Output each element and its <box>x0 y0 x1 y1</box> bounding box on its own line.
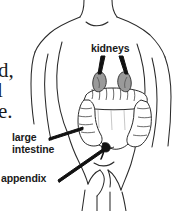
neck-left-line <box>80 0 84 17</box>
left-kidney-shape <box>93 72 107 92</box>
left-shoulder-line <box>35 17 80 52</box>
neck-right-line <box>112 0 117 17</box>
left-flank-line <box>57 42 68 134</box>
right-thigh-line <box>122 192 126 211</box>
colon-striations <box>98 110 125 130</box>
body-text-fragment-2: l <box>0 80 3 101</box>
abdomen-crease-line <box>94 162 114 166</box>
label-appendix: appendix <box>1 173 46 185</box>
right-kidney-shape <box>118 72 132 92</box>
kidneys-leader-left <box>98 56 105 74</box>
body-text-fragment-3: e. <box>0 101 13 122</box>
pubis-right-line <box>108 170 110 187</box>
right-arm-inner-line <box>152 58 157 147</box>
large-intestine-drawing <box>78 88 151 149</box>
left-thigh-line <box>82 190 85 211</box>
kidneys-leader-right <box>119 56 128 74</box>
left-arm-inner-line <box>45 54 51 140</box>
right-arm-outer-line <box>165 57 171 146</box>
chest-contour-line <box>86 22 108 26</box>
label-large-intestine: largeintestine <box>12 132 54 155</box>
groin-left-line <box>88 170 100 184</box>
pubis-line <box>97 170 104 196</box>
label-large-intestine-line2: intestine <box>12 143 54 155</box>
anatomy-figure: d, l e. kidneys largeintestine appendix <box>0 0 188 211</box>
label-large-intestine-line1: large <box>12 131 37 143</box>
left-arm-outer-line <box>31 52 35 124</box>
label-kidneys: kidneys <box>91 43 129 55</box>
